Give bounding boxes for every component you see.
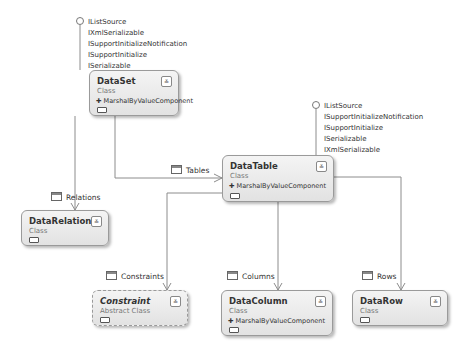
expand-chevron-icon[interactable]: ≚ [91, 216, 102, 227]
class-datatable[interactable]: DataTable Class ✚ MarshalByValueComponen… [222, 155, 334, 202]
class-stereotype: Class [97, 87, 115, 95]
dataset-interfaces: IListSource IXmlSerializable ISupportIni… [88, 17, 187, 72]
interface-label: ISupportInitialize [324, 123, 423, 134]
class-datacolumn[interactable]: DataColumn Class ✚ MarshalByValueCompone… [221, 290, 333, 336]
inherit-arrow-icon: ✚ [228, 317, 233, 325]
expand-chevron-icon[interactable]: ≚ [315, 296, 326, 307]
collection-association-icon [362, 271, 373, 280]
interface-label: ISupportInitializeNotification [88, 39, 187, 50]
class-constraint[interactable]: Constraint Abstract Class ≚ [92, 290, 188, 326]
datatable-interfaces: IListSource ISupportInitializeNotificati… [324, 101, 423, 156]
interface-lollipop-icon [76, 17, 84, 25]
inherit-arrow-icon: ✚ [229, 182, 234, 190]
inherit-arrow-icon: ✚ [96, 97, 101, 105]
class-datarelation[interactable]: DataRelation Class ≚ [21, 210, 109, 246]
collection-association-icon [227, 271, 238, 280]
interface-label: ISerializable [324, 134, 423, 145]
collection-association-icon [51, 192, 62, 201]
interface-label: IXmlSerializable [88, 28, 187, 39]
compartment-icon [229, 327, 239, 333]
class-datarow[interactable]: DataRow Class ≚ [352, 290, 448, 326]
collection-association-icon [106, 271, 117, 280]
class-stereotype: Class [230, 172, 248, 180]
class-diagram-canvas: IListSource IXmlSerializable ISupportIni… [0, 0, 474, 351]
class-stereotype: Class [29, 227, 47, 235]
expand-chevron-icon[interactable]: ≚ [170, 296, 181, 307]
association-constraints[interactable]: Constraints [106, 271, 164, 281]
class-name: DataRow [360, 296, 403, 306]
interface-label: ISupportInitialize [88, 50, 187, 61]
association-relations[interactable]: Relations [51, 192, 100, 202]
class-stereotype: Class [360, 307, 378, 315]
compartment-icon [230, 193, 240, 199]
class-name: DataColumn [229, 296, 288, 306]
association-tables[interactable]: Tables [171, 165, 209, 175]
association-rows[interactable]: Rows [362, 271, 397, 281]
base-class: ✚ MarshalByValueComponent [229, 182, 326, 190]
class-name: Constraint [100, 296, 150, 306]
compartment-icon [360, 317, 370, 323]
compartment-icon [100, 317, 110, 323]
compartment-icon [97, 107, 107, 113]
interface-label: IListSource [88, 17, 187, 28]
interface-label: ISupportInitializeNotification [324, 112, 423, 123]
compartment-icon [29, 237, 39, 243]
interface-lollipop-icon [312, 101, 320, 109]
base-class: ✚ MarshalByValueComponent [228, 317, 325, 325]
interface-label: IListSource [324, 101, 423, 112]
class-dataset[interactable]: DataSet Class ✚ MarshalByValueComponent … [89, 70, 179, 116]
interface-label: IXmlSerializable [324, 145, 423, 156]
expand-chevron-icon[interactable]: ≚ [161, 76, 172, 87]
expand-chevron-icon[interactable]: ≚ [316, 161, 327, 172]
class-name: DataRelation [29, 216, 91, 226]
collection-association-icon [171, 165, 182, 174]
class-name: DataTable [230, 161, 278, 171]
base-class: ✚ MarshalByValueComponent [96, 97, 193, 105]
class-name: DataSet [97, 76, 136, 86]
association-columns[interactable]: Columns [227, 271, 275, 281]
expand-chevron-icon[interactable]: ≚ [430, 296, 441, 307]
class-stereotype: Abstract Class [100, 307, 150, 315]
class-stereotype: Class [229, 307, 247, 315]
